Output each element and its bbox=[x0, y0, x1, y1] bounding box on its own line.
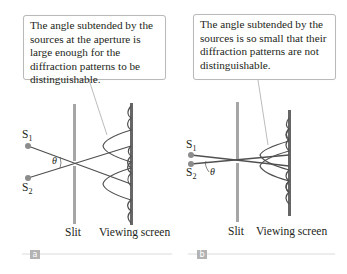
angle-theta-b: θ bbox=[210, 166, 215, 177]
angle-theta-a: θ bbox=[52, 155, 57, 166]
screen-label-a: Viewing screen bbox=[99, 226, 170, 238]
screen-b bbox=[288, 110, 291, 216]
label-subscript: 2 bbox=[192, 172, 196, 181]
panel-tag-b: b bbox=[197, 250, 207, 259]
slit-b-lower bbox=[236, 163, 239, 222]
label-subscript: 2 bbox=[28, 187, 32, 196]
callout-b-pointer bbox=[258, 80, 268, 145]
label-s1-a: S1 bbox=[22, 128, 32, 140]
screen-label-b: Viewing screen bbox=[256, 225, 327, 237]
panel-tag-a: a bbox=[30, 250, 40, 259]
screen-a bbox=[130, 103, 133, 225]
label-subscript: 1 bbox=[192, 144, 196, 153]
label-s2-b: S2 bbox=[186, 166, 196, 178]
label-s1-b: S1 bbox=[186, 138, 196, 150]
callout-b: The angle subtended by the sources is so… bbox=[193, 14, 336, 80]
slit-a-lower bbox=[73, 166, 76, 224]
slit-a-upper bbox=[73, 104, 76, 161]
label-subscript: 1 bbox=[28, 134, 32, 143]
ray-s1 bbox=[28, 146, 131, 184]
callout-a-pointer bbox=[89, 80, 107, 135]
callout-a: The angle subtended by the sources at th… bbox=[23, 15, 166, 80]
slit-label-a: Slit bbox=[65, 226, 81, 238]
slit-b-upper bbox=[236, 102, 239, 159]
slit-label-b: Slit bbox=[228, 225, 244, 237]
pattern-a-upper bbox=[103, 106, 131, 186]
label-s2-a: S2 bbox=[22, 181, 32, 193]
source-s1-a bbox=[25, 143, 31, 149]
